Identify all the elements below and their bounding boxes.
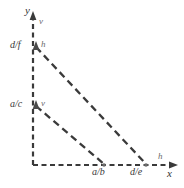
x-tick-label-inner: a/b xyxy=(92,167,105,177)
v-direction-label-mid: v xyxy=(41,99,45,108)
constraint-line-outer xyxy=(36,47,146,164)
y-tick-label-lower: a/c xyxy=(10,99,22,109)
y-axis-arrowhead xyxy=(30,11,37,20)
x-intercept-marker-outer xyxy=(144,163,148,167)
constraint-line-inner xyxy=(36,106,104,164)
v-direction-label-top: v xyxy=(39,17,43,26)
figure-canvas xyxy=(0,0,184,188)
h-direction-label-top: h xyxy=(41,40,46,49)
h-direction-label-right: h xyxy=(158,152,163,161)
constraint-lines-figure: y x d/f a/c a/b d/e v v h h xyxy=(0,0,184,188)
x-tick-label-outer: d/e xyxy=(130,167,142,177)
y-axis-label: y xyxy=(25,5,30,16)
y-axis xyxy=(30,11,37,165)
x-axis-label: x xyxy=(167,168,172,179)
y-tick-label-upper: d/f xyxy=(10,40,21,50)
